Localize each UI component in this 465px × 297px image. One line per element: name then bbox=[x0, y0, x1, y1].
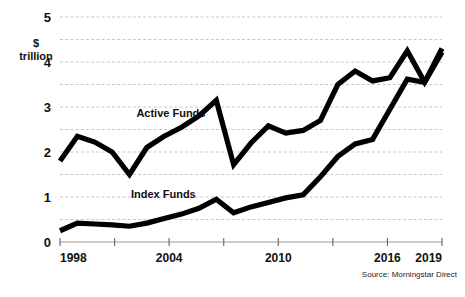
y-tick-label: 5 bbox=[44, 10, 51, 25]
data-series-group bbox=[60, 49, 442, 231]
series-label: Active Funds bbox=[136, 107, 205, 119]
x-tick-label: 2010 bbox=[265, 251, 292, 265]
x-tick-label: 2016 bbox=[374, 251, 401, 265]
y-tick-label: 0 bbox=[44, 235, 51, 250]
chart-container: 012345 19982004201020162019 $ trillion A… bbox=[0, 0, 465, 297]
line-chart: 012345 19982004201020162019 $ trillion A… bbox=[0, 0, 465, 297]
x-tick-label: 2019 bbox=[415, 251, 442, 265]
source-caption: Source: Morningstar Direct bbox=[362, 270, 458, 279]
y-tick-label: 2 bbox=[44, 145, 51, 160]
x-tick-label: 2004 bbox=[156, 251, 183, 265]
y-tick-label: 1 bbox=[44, 190, 51, 205]
series-line bbox=[60, 51, 442, 175]
x-tick-label: 1998 bbox=[60, 251, 87, 265]
y-tick-label: 3 bbox=[44, 100, 51, 115]
y-axis-title: $ trillion bbox=[19, 37, 53, 62]
x-axis bbox=[60, 238, 442, 246]
series-label: Index Funds bbox=[131, 188, 196, 200]
y-axis-title-line1: $ bbox=[33, 37, 39, 49]
x-tick-labels: 19982004201020162019 bbox=[60, 251, 442, 265]
y-axis-title-line2: trillion bbox=[19, 50, 53, 62]
y-tick-labels: 012345 bbox=[44, 10, 52, 250]
